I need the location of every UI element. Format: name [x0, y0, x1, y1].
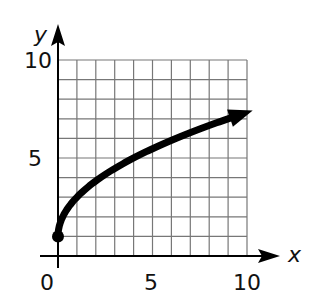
start-point-dot [52, 230, 64, 242]
x-tick-10: 10 [233, 270, 261, 295]
function-curve [58, 117, 234, 237]
x-axis [40, 249, 280, 263]
square-root-graph: x y 0 5 10 5 10 [0, 0, 313, 297]
curve-arrow-icon [227, 110, 253, 127]
x-axis-label: x [287, 242, 302, 267]
y-tick-5: 5 [28, 146, 42, 171]
y-axis-label: y [33, 22, 48, 47]
x-tick-5: 5 [144, 270, 158, 295]
grid [58, 60, 247, 256]
origin-label: 0 [40, 270, 54, 295]
y-tick-10: 10 [24, 48, 52, 73]
